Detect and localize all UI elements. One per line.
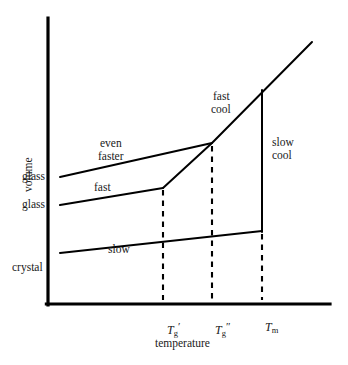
fast-cool-label-line1: fast [213,90,230,102]
even-faster-label-line2: faster [98,150,124,162]
glass-lower-label: glass [22,198,45,210]
glass-branch-fast-curve [60,188,163,205]
slow-label: slow [108,243,130,255]
tick-label-tm: Tm [253,308,278,348]
tick-tg-prime-mark: ′ [178,320,180,332]
tick-tm-sub: m [272,325,279,335]
even-faster-label-line1: even [100,137,122,149]
tick-label-tg-prime: Tg′ [155,308,180,351]
supercooled-liquid-curve [163,42,312,188]
dashed-guide-group [163,146,262,300]
glass-upper-label: glass [22,170,45,182]
tick-tg-dprime-mark: ″ [226,320,231,332]
axis-group [46,18,330,305]
tick-tg-prime-base: T [167,323,174,337]
slow-cool-label-line1: slow [272,136,294,148]
crystal-branch-curve [60,231,262,253]
glass-branch-even-faster-curve [60,143,212,177]
tick-tg-dprime-base: T [215,323,222,337]
tick-tm-base: T [265,320,272,334]
volume-temperature-diagram: volume temperature glass glass crystal e… [0,0,348,365]
tick-label-tg-dprime: Tg″ [203,308,231,351]
crystal-label: crystal [12,261,43,273]
fast-label: fast [94,181,111,193]
fast-cool-label-line2: cool [211,103,231,115]
slow-cool-label-line2: cool [272,149,292,161]
